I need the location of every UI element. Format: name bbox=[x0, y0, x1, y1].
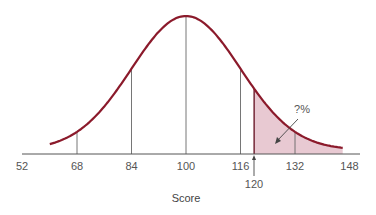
normal-distribution-chart: 526884100116132148 120 ?% Score bbox=[0, 0, 376, 215]
tick-label: 68 bbox=[71, 160, 83, 172]
tick-label: 100 bbox=[177, 160, 195, 172]
marked-value-label: 120 bbox=[245, 178, 263, 190]
x-axis-title: Score bbox=[172, 192, 201, 204]
tick-label: 84 bbox=[125, 160, 137, 172]
tick-label: 52 bbox=[16, 160, 28, 172]
tick-label: 132 bbox=[286, 160, 304, 172]
annotation-label: ?% bbox=[294, 103, 310, 115]
shaded-region bbox=[254, 89, 343, 154]
tick-label: 116 bbox=[232, 160, 250, 172]
marked-value-arrow bbox=[252, 155, 256, 176]
tick-label: 148 bbox=[340, 160, 358, 172]
tick-labels: 526884100116132148 bbox=[16, 160, 359, 172]
normal-curve bbox=[50, 16, 343, 148]
